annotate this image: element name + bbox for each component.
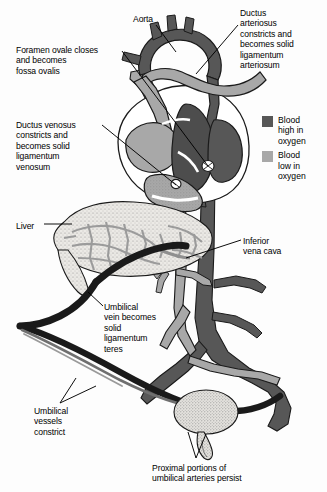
label-aorta: Aorta <box>133 14 153 24</box>
legend-item-blood-high-oxygen: Blood high in oxygen <box>262 115 326 146</box>
label-ductus-arteriosus: Ductus arteriosus constricts and becomes… <box>240 8 294 70</box>
valve-marker-lower <box>171 179 181 188</box>
urinary-bladder <box>174 390 238 434</box>
label-umbilical-vessels: Umbilical vessels constrict <box>34 406 68 437</box>
legend-label-low-oxygen: Blood low in oxygen <box>278 150 306 181</box>
left-common-carotid <box>167 15 177 31</box>
label-ductus-venosus: Ductus venosus constricts and becomes so… <box>16 120 76 172</box>
fetal-circulation-figure: Aorta Ductus arteriosus constricts and b… <box>0 0 327 492</box>
label-liver: Liver <box>16 221 34 231</box>
label-proximal-umbilical-arteries: Proximal portions of umbilical arteries … <box>152 463 242 484</box>
urinary-bladder-group <box>174 390 238 460</box>
aortic-branch-right-lower <box>212 312 262 338</box>
leader-umbilical-arteries-a <box>188 432 196 458</box>
aortic-branch-right-upper <box>214 276 266 293</box>
label-inferior-vena-cava: Inferior vena cava <box>243 236 281 257</box>
legend-swatch-low-oxygen <box>262 151 273 162</box>
leader-umbilical-vein <box>88 292 103 306</box>
label-foramen-ovale: Foramen ovale closes and becomes fossa o… <box>16 45 98 76</box>
legend-label-high-oxygen: Blood high in oxygen <box>278 115 306 146</box>
right-atrium <box>126 123 179 173</box>
legend-item-blood-low-oxygen: Blood low in oxygen <box>262 150 326 181</box>
legend: Blood high in oxygen Blood low in oxygen <box>262 115 326 185</box>
legend-swatch-high-oxygen <box>262 116 273 127</box>
label-umbilical-vein: Umbilical vein becomes solid ligamentum … <box>104 302 156 354</box>
left-subclavian-artery <box>184 17 194 34</box>
